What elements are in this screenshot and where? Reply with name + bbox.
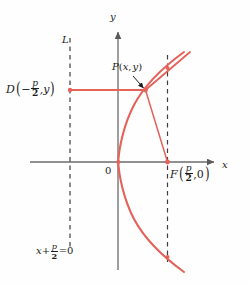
label-D-sign: − — [21, 83, 30, 96]
label-P-name: P — [112, 61, 119, 72]
p-label-leader-arrow — [133, 76, 144, 88]
equation-tail: =0 — [59, 245, 74, 256]
label-D-denominator: 2 — [31, 89, 39, 98]
label-F-close-paren: ) — [205, 166, 210, 183]
label-directrix-name: L — [62, 35, 69, 45]
equation-plus: + — [42, 245, 50, 256]
label-D-close-paren: ) — [50, 81, 55, 98]
label-F-second-coord: 0 — [197, 168, 204, 181]
equation-denominator: 2 — [51, 252, 59, 260]
label-D-open-paren: ( — [16, 81, 21, 98]
label-D-name: D — [6, 83, 15, 96]
label-point-P: P(x,y) — [112, 62, 142, 72]
marker-lower-intersection — [166, 255, 170, 259]
label-F-fraction: p2 — [185, 164, 193, 183]
label-y-axis: y — [110, 12, 116, 22]
label-D-second-coord: y — [43, 83, 49, 96]
marker-upper-intersection — [166, 66, 170, 70]
label-F-denominator: 2 — [185, 174, 193, 183]
figure-canvas — [0, 0, 250, 284]
parabola-figure: D(−p2,y) P(x,y) F(p2,0) L y x 0 x+p2=0 — [0, 0, 250, 284]
marker-F — [165, 160, 170, 165]
label-F-open-paren: ( — [179, 166, 184, 183]
segment-P-to-F — [146, 90, 168, 162]
label-point-F: F(p2,0) — [170, 165, 210, 184]
label-F-name: F — [170, 168, 178, 181]
label-D-fraction: p2 — [31, 79, 39, 98]
label-x-axis: x — [222, 160, 228, 170]
marker-D — [68, 88, 72, 92]
label-point-D: D(−p2,y) — [6, 80, 56, 99]
label-directrix-equation: x+p2=0 — [36, 243, 73, 261]
label-P-close-paren: ) — [138, 61, 142, 72]
equation-fraction: p2 — [51, 242, 59, 260]
marker-P — [143, 88, 148, 93]
marker-vertex — [116, 160, 120, 164]
label-origin: 0 — [105, 166, 111, 176]
